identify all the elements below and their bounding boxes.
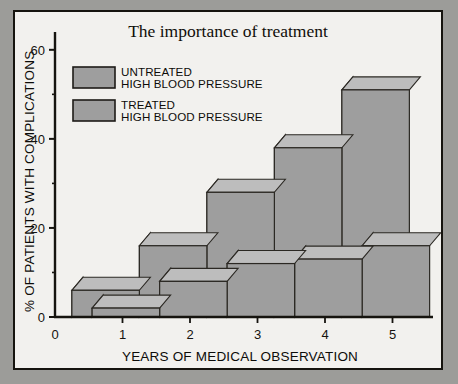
legend-item-treated: TREATEDHIGH BLOOD PRESSURE <box>73 98 263 123</box>
x-axis-ticks: 012345 <box>51 317 396 342</box>
chart-title: The importance of treatment <box>128 21 328 41</box>
x-tick-label-4: 4 <box>321 327 328 342</box>
x-axis-label: YEARS OF MEDICAL OBSERVATION <box>122 349 358 364</box>
legend-item-untreated: UNTREATEDHIGH BLOOD PRESSURE <box>73 65 263 90</box>
x-tick-label-0: 0 <box>51 327 58 342</box>
y-tick-label-0: 0 <box>38 310 45 325</box>
y-tick-label-20: 20 <box>31 221 45 236</box>
bar-treated-year-3 <box>227 251 306 317</box>
bar-treated-year-5 <box>362 233 441 317</box>
bar-treated-year-2 <box>160 268 239 317</box>
x-tick-label-1: 1 <box>119 327 126 342</box>
y-tick-label-40: 40 <box>31 132 45 147</box>
bar-chart: The importance of treatment % OF PATIENT… <box>15 12 441 368</box>
y-tick-label-60: 60 <box>31 43 45 58</box>
x-tick-label-2: 2 <box>186 327 193 342</box>
bar-treated-year-1 <box>92 295 171 317</box>
x-tick-label-3: 3 <box>254 327 261 342</box>
chart-legend: UNTREATEDHIGH BLOOD PRESSURETREATEDHIGH … <box>73 65 263 123</box>
legend-label-line2: HIGH BLOOD PRESSURE <box>121 77 263 90</box>
y-axis-label: % OF PATIENTS WITH COMPLICATIONS <box>22 51 37 312</box>
legend-swatch <box>73 67 115 88</box>
figure-frame: The importance of treatment % OF PATIENT… <box>13 10 443 370</box>
legend-label-line2: HIGH BLOOD PRESSURE <box>121 110 263 123</box>
x-tick-label-5: 5 <box>389 327 396 342</box>
legend-swatch <box>73 100 115 121</box>
bar-treated-year-4 <box>295 246 374 317</box>
